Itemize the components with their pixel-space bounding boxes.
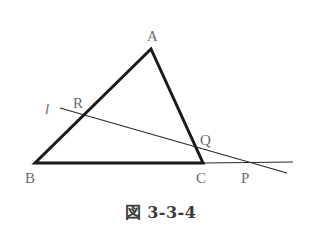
diagram-canvas: A R l Q B C P 図 3-3-4 bbox=[0, 0, 321, 227]
label-c: C bbox=[196, 170, 206, 186]
label-a: A bbox=[147, 28, 158, 44]
figure-caption: 図 3-3-4 bbox=[0, 199, 321, 223]
triangle-figure: A R l Q B C P bbox=[0, 0, 321, 227]
label-p: P bbox=[241, 170, 249, 186]
label-b: B bbox=[25, 170, 35, 186]
label-l: l bbox=[45, 101, 49, 117]
label-q: Q bbox=[200, 132, 211, 148]
label-r: R bbox=[73, 95, 83, 111]
triangle-abc bbox=[35, 49, 203, 163]
